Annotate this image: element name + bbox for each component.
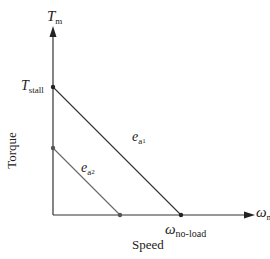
line-ea1-label: ea1 <box>132 130 146 144</box>
line-ea1 <box>53 87 181 215</box>
no-load-sub: no-load <box>176 228 207 239</box>
line-ea2 <box>53 148 120 215</box>
stall-label-main: T <box>21 78 29 93</box>
stall-label: Tstall <box>21 79 44 93</box>
no-load-label: ωno-load <box>165 222 206 237</box>
no-load-point <box>179 213 183 217</box>
x-axis-symbol-sub: m <box>267 212 270 222</box>
ea1-subsub: 1 <box>142 137 146 145</box>
line-ea2-label: ea2 <box>81 161 95 175</box>
x-axis-title: Speed <box>132 238 164 251</box>
ea2-subsub: 2 <box>91 168 95 176</box>
y-axis-symbol-sub: m <box>55 16 62 26</box>
x-axis-symbol: ωm <box>256 205 270 220</box>
no-load-main: ω <box>165 221 176 237</box>
x-axis-symbol-main: ω <box>256 204 267 220</box>
ea2-stall-point <box>51 146 55 150</box>
y-axis-arrow-icon <box>50 26 57 37</box>
stall-point <box>51 85 55 89</box>
y-axis-title: Torque <box>5 132 18 169</box>
ea2-no-load-point <box>118 213 122 217</box>
y-axis-symbol: Tm <box>47 9 62 24</box>
x-axis-arrow-icon <box>244 212 255 219</box>
stall-label-sub: stall <box>29 85 44 95</box>
